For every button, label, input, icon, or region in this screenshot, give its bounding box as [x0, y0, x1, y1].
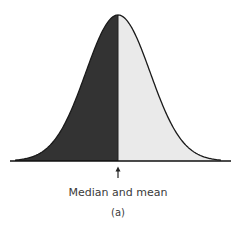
area-above-mean	[118, 15, 221, 161]
up-arrow-icon	[116, 167, 121, 179]
panel-label: (a)	[111, 207, 125, 218]
median-mean-label: Median and mean	[69, 186, 168, 199]
normal-distribution-chart: Median and mean (a)	[0, 0, 237, 226]
area-below-mean	[15, 15, 118, 161]
arrow-head	[116, 167, 121, 172]
